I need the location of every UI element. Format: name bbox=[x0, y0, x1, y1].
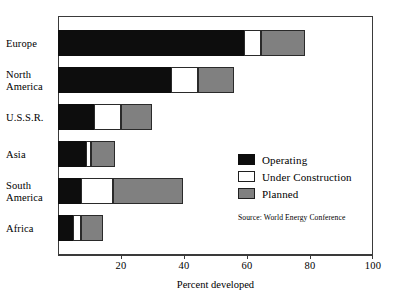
x-axis-tick-label-40: 40 bbox=[179, 260, 190, 271]
legend-label-operating: Operating bbox=[262, 154, 307, 166]
bar-segment-under-construction bbox=[171, 67, 198, 93]
bar-row-south-america bbox=[58, 178, 183, 204]
legend-swatch-under-construction-icon bbox=[238, 171, 255, 182]
x-axis-title: Percent developed bbox=[58, 279, 373, 290]
x-axis-tick-100 bbox=[372, 255, 373, 259]
bar-row-africa bbox=[58, 215, 103, 241]
x-axis-tick-60 bbox=[247, 255, 248, 259]
bar-row-asia bbox=[58, 141, 115, 167]
x-axis-tick-80 bbox=[310, 255, 311, 259]
bar-segment-planned bbox=[81, 215, 103, 241]
bar-row-europe bbox=[58, 30, 305, 56]
legend-label-planned: Planned bbox=[262, 188, 299, 200]
legend-swatch-planned-icon bbox=[238, 188, 255, 199]
bar-segment-operating bbox=[58, 104, 94, 130]
bar-row-north-america bbox=[58, 67, 234, 93]
source-note: Source: World Energy Conference bbox=[238, 213, 345, 222]
legend-item-planned: Planned bbox=[238, 186, 352, 201]
legend-swatch-operating-icon bbox=[238, 154, 255, 165]
bar-segment-operating bbox=[58, 178, 81, 204]
bar-segment-under-construction bbox=[81, 178, 113, 204]
stacked-bar-chart: Europe North America U.S.S.R. Asia South… bbox=[0, 0, 393, 303]
y-axis-label-north-america: North America bbox=[6, 69, 50, 92]
bar-segment-under-construction bbox=[94, 104, 121, 130]
legend-item-under-construction: Under Construction bbox=[238, 169, 352, 184]
bar-segment-under-construction bbox=[244, 30, 261, 56]
x-axis-tick-label-100: 100 bbox=[365, 260, 381, 271]
y-axis-label-europe: Europe bbox=[6, 38, 50, 50]
bar-segment-planned bbox=[261, 30, 305, 56]
x-axis-tick-40 bbox=[184, 255, 185, 259]
y-axis-label-ussr: U.S.S.R. bbox=[6, 112, 50, 124]
bar-row-ussr bbox=[58, 104, 152, 130]
x-axis-tick-label-60: 60 bbox=[242, 260, 253, 271]
bar-segment-planned bbox=[113, 178, 183, 204]
x-axis-tick-20 bbox=[121, 255, 122, 259]
y-axis-label-africa: Africa bbox=[6, 223, 50, 235]
bar-segment-operating bbox=[58, 67, 171, 93]
bar-segment-planned bbox=[198, 67, 234, 93]
x-axis-tick-label-20: 20 bbox=[116, 260, 127, 271]
legend: Operating Under Construction Planned bbox=[238, 152, 352, 203]
bar-segment-planned bbox=[91, 141, 115, 167]
bar-segment-operating bbox=[58, 215, 73, 241]
y-axis-label-asia: Asia bbox=[6, 149, 50, 161]
y-axis-label-south-america: South America bbox=[6, 180, 50, 203]
bar-segment-operating bbox=[58, 30, 244, 56]
legend-item-operating: Operating bbox=[238, 152, 352, 167]
bar-segment-planned bbox=[121, 104, 152, 130]
bar-segment-operating bbox=[58, 141, 86, 167]
legend-label-under-construction: Under Construction bbox=[262, 171, 352, 183]
bar-segment-under-construction bbox=[73, 215, 81, 241]
y-axis-category-labels: Europe North America U.S.S.R. Asia South… bbox=[0, 16, 55, 255]
x-axis-tick-label-80: 80 bbox=[305, 260, 316, 271]
x-axis-line bbox=[58, 255, 373, 256]
